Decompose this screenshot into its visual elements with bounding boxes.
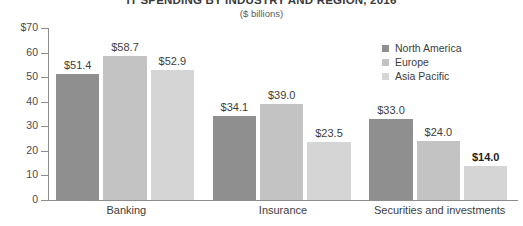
y-tick-mark	[41, 175, 48, 176]
bar-value-label: $34.1	[221, 101, 249, 113]
bar-value-label: $39.0	[268, 89, 296, 101]
y-tick-label: 50	[26, 70, 38, 82]
bar-value-label: $58.7	[111, 41, 139, 53]
category-label: Insurance	[205, 204, 362, 216]
legend-swatch-icon	[382, 45, 389, 52]
y-tick-mark	[41, 126, 48, 127]
y-tick-label: 10	[26, 168, 38, 180]
bar-value-label: $51.4	[64, 59, 92, 71]
bar-value-label: $14.0	[472, 151, 500, 163]
bar[interactable]: $34.1	[213, 116, 256, 200]
y-tick-mark	[41, 102, 48, 103]
y-tick-label: 30	[26, 119, 38, 131]
legend-swatch-icon	[382, 59, 389, 66]
x-axis-line	[48, 200, 518, 201]
chart-legend: North AmericaEuropeAsia Pacific	[382, 42, 462, 84]
bar-value-label: $33.0	[377, 104, 405, 116]
bar[interactable]: $39.0	[260, 104, 303, 200]
chart-container: IT SPENDING BY INDUSTRY AND REGION, 2016…	[0, 0, 523, 226]
y-tick-mark	[41, 151, 48, 152]
chart-subtitle: ($ billions)	[0, 8, 523, 19]
bar[interactable]: $23.5	[307, 142, 350, 200]
y-tick-label: 40	[26, 95, 38, 107]
category-label: Banking	[48, 204, 205, 216]
bar[interactable]: $33.0	[369, 119, 412, 200]
y-tick-label: 60	[26, 46, 38, 58]
bar[interactable]: $52.9	[151, 70, 194, 200]
y-tick-mark	[41, 77, 48, 78]
legend-label: Europe	[395, 56, 429, 68]
y-tick-label: 0	[32, 193, 38, 205]
y-tick-label: 20	[26, 144, 38, 156]
bar[interactable]: $24.0	[417, 141, 460, 200]
legend-label: Asia Pacific	[395, 70, 449, 82]
bar[interactable]: $58.7	[103, 56, 146, 200]
bar[interactable]: $14.0	[464, 166, 507, 200]
bar-value-label: $23.5	[315, 127, 343, 139]
y-tick-label: $70	[20, 21, 38, 33]
y-tick-mark	[41, 200, 48, 201]
legend-swatch-icon	[382, 73, 389, 80]
legend-label: North America	[395, 42, 462, 54]
y-tick-mark	[41, 28, 48, 29]
y-tick-mark	[41, 53, 48, 54]
category-label: Securities and investments	[361, 204, 518, 216]
legend-item[interactable]: Europe	[382, 56, 462, 68]
bar-value-label: $24.0	[425, 126, 453, 138]
chart-title: IT SPENDING BY INDUSTRY AND REGION, 2016	[0, 0, 523, 6]
legend-item[interactable]: North America	[382, 42, 462, 54]
bar-value-label: $52.9	[159, 55, 187, 67]
bar[interactable]: $51.4	[56, 74, 99, 200]
legend-item[interactable]: Asia Pacific	[382, 70, 462, 82]
